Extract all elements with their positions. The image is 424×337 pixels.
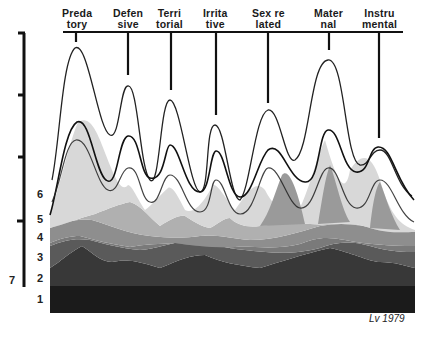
category-label-irritative: Irrita tive: [203, 8, 228, 30]
scale-label: 7: [9, 274, 15, 286]
artist-signature: Lv 1979: [369, 313, 405, 324]
aggression-diagram: [0, 0, 424, 337]
layer-label-6: 6: [37, 188, 43, 200]
layer-label-1: 1: [37, 293, 43, 305]
layer-label-3: 3: [37, 251, 43, 263]
category-label-instrumental: Instru mental: [362, 8, 397, 30]
scale-bar: [17, 33, 25, 287]
category-label-territorial: Terri torial: [156, 8, 183, 30]
layer-label-4: 4: [37, 231, 43, 243]
layer-label-5: 5: [37, 213, 43, 225]
category-label-predatory: Preda tory: [62, 8, 92, 30]
category-label-defensive: Defen sive: [113, 8, 143, 30]
layer-label-2: 2: [37, 272, 43, 284]
category-header: [63, 32, 403, 138]
category-label-sex-related: Sex re lated: [252, 8, 285, 30]
category-label-maternal: Mater nal: [314, 8, 343, 30]
